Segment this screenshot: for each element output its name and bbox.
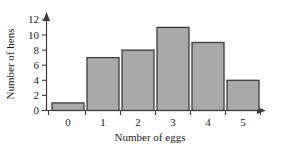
bar-1 — [87, 58, 119, 111]
x-tick-label-4: 4 — [205, 116, 211, 128]
bar-4 — [192, 43, 224, 111]
y-tick-label-6: 6 — [34, 59, 40, 71]
bar-0 — [52, 103, 84, 111]
x-tick-label-5: 5 — [240, 116, 246, 128]
chart-canvas: 0 2 4 6 8 10 12 Number of hens — [0, 0, 288, 145]
y-tick-label-8: 8 — [34, 44, 40, 56]
x-axis-title: Number of eggs — [115, 131, 186, 143]
x-tick-label-0: 0 — [65, 116, 71, 128]
x-tick-label-3: 3 — [170, 116, 176, 128]
x-tick-label-2: 2 — [135, 116, 141, 128]
y-tick-label-10: 10 — [28, 29, 40, 41]
bar-2 — [122, 50, 154, 110]
y-tick-label-12: 12 — [28, 13, 39, 25]
x-tick-label-1: 1 — [100, 116, 106, 128]
bar-5 — [227, 80, 259, 110]
y-tick-label-0: 0 — [34, 104, 40, 116]
y-tick-label-4: 4 — [34, 74, 40, 86]
y-tick-label-2: 2 — [34, 89, 40, 101]
bar-chart-figure: 0 2 4 6 8 10 12 Number of hens — [0, 0, 288, 145]
y-axis-title: Number of hens — [4, 29, 16, 100]
bar-3 — [157, 27, 189, 110]
